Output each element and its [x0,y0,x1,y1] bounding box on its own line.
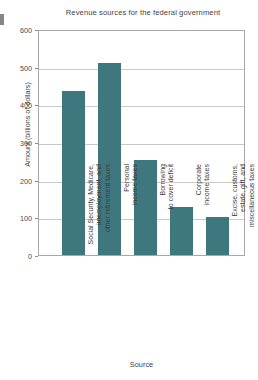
y-tick-label: 600 [4,26,32,35]
y-tick-mark [35,30,38,31]
x-tick-label: Corporate income taxes [195,164,212,260]
x-tick-label: Excise, customs, estate, gift, and misce… [231,164,256,260]
y-tick-mark [35,218,38,219]
plot-area [38,30,245,256]
y-tick-label: 200 [4,177,32,186]
y-tick-mark [35,68,38,69]
x-axis-title: Source [38,360,245,369]
y-tick-mark [35,143,38,144]
x-tick-label: Social Security, Medicare, unemployment,… [87,164,112,260]
gridline [39,69,244,70]
y-tick-label: 100 [4,214,32,223]
y-axis-title: Amount (billions of dollars) [23,35,32,215]
bar [62,91,85,255]
y-tick-mark [35,256,38,257]
y-tick-label: 400 [4,101,32,110]
chart-title: Revenue sources for the federal governme… [38,8,248,17]
y-tick-mark [35,181,38,182]
x-tick-label: Borrowing to cover deficit [159,164,176,260]
scan-artifact [0,14,4,25]
y-tick-label: 300 [4,139,32,148]
y-tick-label: 0 [4,252,32,261]
x-tick-label: Personal income taxes [123,164,140,260]
y-tick-mark [35,105,38,106]
y-tick-label: 500 [4,64,32,73]
